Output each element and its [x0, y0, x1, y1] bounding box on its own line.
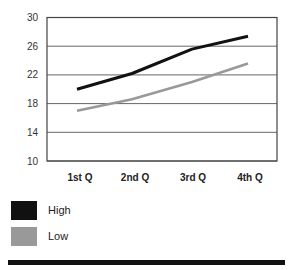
- y-tick-label: 30: [27, 12, 39, 23]
- y-tick-label: 18: [27, 98, 39, 109]
- legend-swatch-low: [11, 227, 37, 246]
- data-series: [77, 36, 248, 111]
- bottom-divider: [8, 260, 285, 265]
- legend-item-low: Low: [11, 223, 71, 249]
- legend: High Low: [11, 197, 71, 249]
- legend-swatch-high: [11, 201, 37, 220]
- x-tick-label: 4th Q: [237, 172, 263, 183]
- x-tick-label: 3rd Q: [180, 172, 206, 183]
- legend-label-high: High: [48, 204, 71, 216]
- y-tick-label: 10: [27, 156, 39, 167]
- x-tick-label: 2nd Q: [121, 172, 150, 183]
- legend-label-low: Low: [48, 230, 68, 242]
- x-axis-ticks: 1st Q2nd Q3rd Q4th Q: [67, 172, 263, 183]
- y-axis-ticks: 302622181410: [27, 12, 39, 167]
- series-line-high: [77, 36, 248, 89]
- legend-item-high: High: [11, 197, 71, 223]
- y-tick-label: 26: [27, 41, 39, 52]
- y-tick-label: 14: [27, 127, 39, 138]
- y-tick-label: 22: [27, 69, 39, 80]
- x-tick-label: 1st Q: [67, 172, 92, 183]
